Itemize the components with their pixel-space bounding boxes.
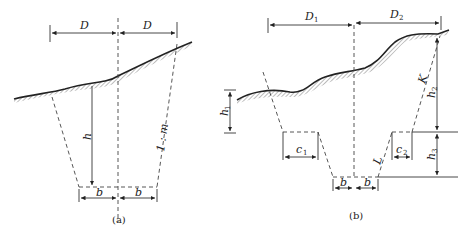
label-b-left-b: b bbox=[340, 176, 347, 189]
label-h: h bbox=[81, 133, 94, 140]
panel-b: D 1 D 2 h 1 c 1 b b bbox=[218, 8, 458, 221]
slope-lower-right bbox=[378, 132, 392, 177]
label-d2: D bbox=[389, 8, 399, 21]
caption-a: (a) bbox=[112, 214, 126, 225]
label-b-left: b bbox=[96, 186, 103, 199]
label-slope: 1 : m bbox=[154, 123, 171, 153]
label-c1-sub: 1 bbox=[303, 149, 307, 157]
trench-side-left bbox=[52, 97, 79, 187]
label-h3-sub: 3 bbox=[431, 149, 439, 153]
label-b-right: b bbox=[135, 186, 142, 199]
label-c2: c bbox=[396, 143, 402, 156]
label-c1: c bbox=[296, 143, 302, 156]
label-b-right-b: b bbox=[364, 176, 371, 189]
label-d1-sub: 1 bbox=[314, 16, 318, 24]
trench-cross-section-diagram: D D h 1 : m b b (a) D 1 D 2 bbox=[0, 0, 461, 240]
trench-side-right bbox=[157, 44, 177, 187]
ground-line bbox=[14, 42, 192, 99]
panel-a: D D h 1 : m b b (a) bbox=[14, 18, 192, 225]
slope-lower-left bbox=[318, 132, 333, 177]
label-l: L bbox=[370, 155, 385, 167]
label-c2-sub: 2 bbox=[403, 149, 407, 157]
caption-b: (b) bbox=[349, 210, 363, 221]
label-h2-sub: 2 bbox=[431, 87, 439, 91]
label-d-right: D bbox=[142, 19, 152, 32]
ground-hatch-b bbox=[237, 30, 449, 104]
label-h1-sub: 1 bbox=[224, 106, 232, 110]
label-k: K bbox=[415, 72, 430, 86]
label-d-left: D bbox=[79, 19, 89, 32]
slope-upper-left bbox=[263, 72, 283, 132]
label-d2-sub: 2 bbox=[399, 14, 403, 22]
label-d1: D bbox=[304, 10, 314, 23]
ground-line-b bbox=[237, 30, 449, 100]
